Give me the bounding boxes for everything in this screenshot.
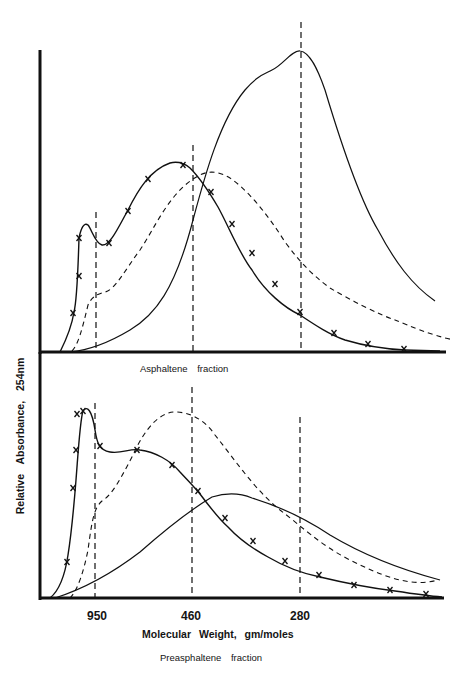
x-tick-950: 950 bbox=[87, 609, 107, 623]
x-marker bbox=[251, 538, 256, 544]
lower-dashed-curve bbox=[70, 412, 438, 598]
y-axis-label: Relative Absorbance, 254nm bbox=[14, 358, 26, 515]
x-tick-280: 280 bbox=[290, 609, 310, 623]
x-tick-460: 460 bbox=[181, 609, 201, 623]
upper-marked-curve bbox=[60, 162, 440, 352]
lower-marked-curve bbox=[50, 409, 442, 598]
x-marker bbox=[75, 411, 80, 417]
x-marker bbox=[196, 488, 201, 494]
x-marker bbox=[283, 558, 288, 564]
x-marker bbox=[98, 443, 103, 449]
lower-x-markers bbox=[65, 408, 429, 597]
x-axis-label: Molecular Weight, gm/moles bbox=[142, 628, 294, 640]
lower-panel-caption: Preasphaltene fraction bbox=[160, 652, 262, 663]
upper-panel-caption: Asphaltene fraction bbox=[140, 363, 228, 374]
upper-panel bbox=[39, 22, 454, 354]
x-marker bbox=[230, 221, 235, 227]
lower-broad-curve bbox=[55, 494, 440, 598]
lower-panel bbox=[39, 352, 444, 600]
x-marker bbox=[223, 515, 228, 521]
upper-tall-curve bbox=[70, 51, 435, 352]
chart-figure bbox=[0, 0, 475, 680]
x-marker bbox=[424, 591, 429, 597]
x-marker bbox=[146, 176, 151, 182]
upper-x-markers bbox=[71, 162, 407, 352]
x-marker bbox=[250, 250, 255, 256]
x-marker bbox=[298, 309, 303, 315]
x-marker bbox=[273, 281, 278, 287]
